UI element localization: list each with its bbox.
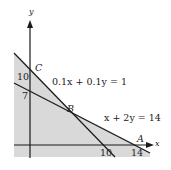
feasible-region-diagram: y x C B A 10 7 10 14 0.1x + 0.1y = 1 x +… <box>0 0 171 170</box>
x-tick-label-10: 10 <box>100 148 112 158</box>
vertex-label-a: A <box>137 134 144 144</box>
x-axis-label: x <box>155 140 160 148</box>
x-tick-label-14: 14 <box>131 148 143 158</box>
vertex-label-c: C <box>35 63 42 73</box>
y-axis-label: y <box>29 8 34 16</box>
equation-label-1: 0.1x + 0.1y = 1 <box>52 77 127 87</box>
vertex-label-b: B <box>67 104 74 114</box>
x-axis-arrow-icon <box>146 142 154 148</box>
y-tick-label-10: 10 <box>17 72 29 82</box>
equation-label-2: x + 2y = 14 <box>104 113 161 123</box>
y-tick-label-7: 7 <box>22 91 28 101</box>
shaded-feasible-region <box>14 22 150 157</box>
y-axis-arrow-icon <box>27 20 33 28</box>
